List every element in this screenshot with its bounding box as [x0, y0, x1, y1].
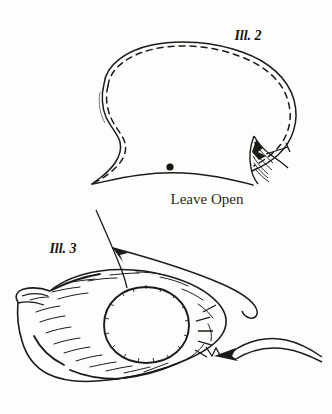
labels-layer: Ill. 2 Leave Open Ill. 3 — [0, 0, 332, 414]
illustration-page: Ill. 2 Leave Open Ill. 3 — [0, 0, 332, 414]
caption-leave-open: Leave Open — [171, 191, 244, 207]
figure-label-ill-2: Ill. 2 — [233, 28, 261, 43]
figure-label-ill-3: Ill. 3 — [48, 241, 76, 256]
